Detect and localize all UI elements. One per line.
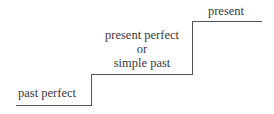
step-2-label-line-1: present perfect — [92, 28, 192, 42]
step-3-label: present — [200, 4, 252, 18]
step-2-label-line-3: simple past — [92, 56, 192, 70]
riser-2-line — [192, 21, 193, 75]
step-1-label: past perfect — [18, 86, 88, 100]
step-1-line — [16, 105, 92, 106]
step-2-label-line-2: or — [92, 42, 192, 56]
step-2-line — [91, 74, 193, 75]
riser-1-line — [91, 74, 92, 106]
step-3-line — [192, 21, 262, 22]
